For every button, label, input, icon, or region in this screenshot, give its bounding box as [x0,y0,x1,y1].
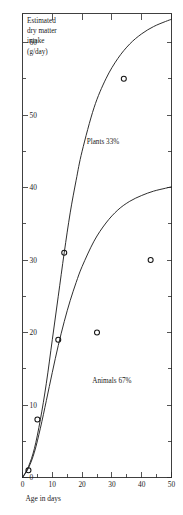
y-tick-label: 0 [30,473,34,482]
plot-canvas: 0102030405060 01020304050 Plants 33%Anim… [0,0,183,515]
x-axis-title: Age in days [26,494,61,503]
y-tick-label: 10 [30,401,38,410]
x-tick-label: 20 [78,480,86,489]
x-tick-label: 40 [138,480,146,489]
y-tick-label: 40 [30,183,38,192]
series-annotations: Plants 33%Animals 67% [87,138,132,385]
chart-figure: Estimated dry matter intake (g/day) 0102… [0,0,183,515]
data-point [35,417,40,422]
series-curves [23,19,172,477]
x-tick-label: 10 [49,480,57,489]
y-tick-label: 60 [30,38,38,47]
y-axis-tick-labels: 0102030405060 [30,38,38,482]
x-axis-tick-labels: 01020304050 [21,480,176,489]
x-axis-title-text: Age in days [26,494,61,503]
y-axis-ticks [23,43,172,478]
x-tick-label: 30 [108,480,116,489]
data-point-markers [26,76,153,473]
y-tick-label: 50 [30,111,38,120]
series-annotation: Animals 67% [92,377,131,385]
data-point [148,258,153,263]
y-tick-label: 20 [30,328,38,337]
data-point [121,76,126,81]
x-tick-label: 50 [168,480,176,489]
y-tick-label: 30 [30,256,38,265]
series-annotation: Plants 33% [87,138,120,146]
series-curve [23,187,172,478]
data-point [95,330,100,335]
x-tick-label: 0 [21,480,25,489]
